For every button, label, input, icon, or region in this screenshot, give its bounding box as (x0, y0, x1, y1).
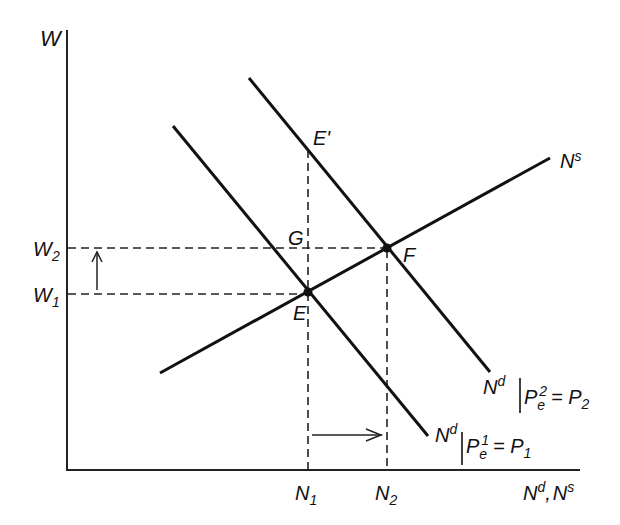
labor-demand-curve-2 (249, 78, 490, 372)
point-g-label: G (288, 227, 304, 249)
labor-demand-curve-1 (173, 126, 428, 436)
y-axis-label: W (40, 26, 63, 51)
point-f-label: F (403, 244, 417, 266)
svg-text:Nd,Ns: Nd,Ns (523, 479, 574, 504)
point-e-prime-label: E' (313, 127, 331, 149)
supply-curve-label: Ns (560, 148, 581, 172)
demand-curve-1-label: Nd Pe1= P1 (435, 421, 531, 465)
point-e-label: E (293, 302, 307, 324)
demand-curve-2-label: Nd Pe2= P2 (483, 373, 590, 413)
svg-text:Pe1= P1: Pe1= P1 (466, 432, 531, 462)
n1-label: N1 (295, 482, 317, 508)
n2-label: N2 (375, 482, 397, 508)
labor-market-diagram: W Nd,Ns W2 W1 N1 N2 E E' F G Ns (0, 0, 620, 525)
svg-text:Nd: Nd (435, 421, 458, 446)
point-f-dot (383, 244, 392, 253)
w2-label: W2 (33, 238, 60, 264)
point-e-dot (304, 288, 313, 297)
employment-right-arrow-icon (312, 429, 382, 441)
wage-up-arrow-icon (92, 252, 102, 290)
svg-text:Nd: Nd (483, 373, 506, 398)
svg-text:Pe2= P2: Pe2= P2 (524, 383, 590, 413)
labor-supply-curve (160, 158, 550, 373)
w1-label: W1 (33, 284, 60, 310)
x-axis-label: Nd,Ns (523, 479, 574, 504)
